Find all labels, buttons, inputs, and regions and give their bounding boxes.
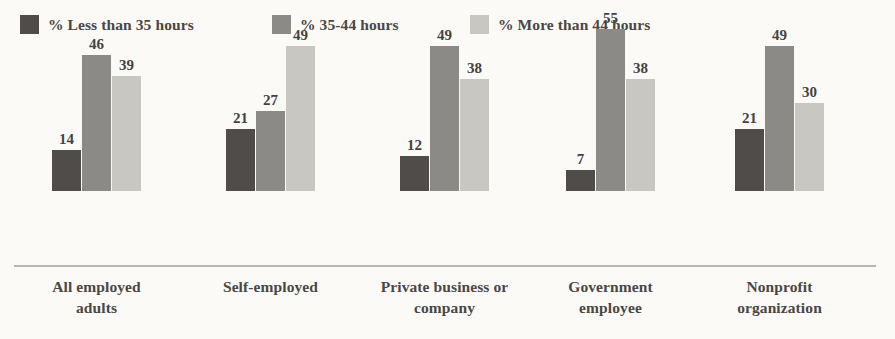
category-label-line: Nonprofit xyxy=(700,276,860,297)
category-label: Governmentemployee xyxy=(531,276,691,319)
bar-value-label: 12 xyxy=(407,138,422,153)
x-axis-baseline xyxy=(14,265,876,267)
bar-value-label: 39 xyxy=(119,58,134,73)
category-label-line: organization xyxy=(700,297,860,318)
bar[interactable]: 27 xyxy=(256,111,285,191)
bar-value-label: 55 xyxy=(603,11,618,26)
bar-value-label: 38 xyxy=(467,61,482,76)
bar[interactable]: 21 xyxy=(226,129,255,191)
bar-group: 75538 xyxy=(566,0,656,265)
bar-value-label: 49 xyxy=(293,28,308,43)
bar[interactable]: 49 xyxy=(286,46,315,191)
bar-group: 214930 xyxy=(735,0,825,265)
plot-area: 144639All employedadults212749Self-emplo… xyxy=(0,0,895,339)
bar-value-label: 30 xyxy=(802,85,817,100)
category-label: Nonprofitorganization xyxy=(700,276,860,319)
bar-value-label: 38 xyxy=(633,61,648,76)
bar-value-label: 49 xyxy=(772,28,787,43)
bar-group: 212749 xyxy=(226,0,316,265)
bar-group: 124938 xyxy=(400,0,490,265)
bar-value-label: 27 xyxy=(263,93,278,108)
bar[interactable]: 12 xyxy=(400,156,429,191)
category-label-line: employee xyxy=(531,297,691,318)
category-label: Self-employed xyxy=(191,276,351,297)
category-label-line: All employed xyxy=(17,276,177,297)
bar[interactable]: 7 xyxy=(566,170,595,191)
bar[interactable]: 39 xyxy=(112,76,141,191)
category-label-line: Private business or xyxy=(365,276,525,297)
bar-value-label: 7 xyxy=(577,152,585,167)
category-label: All employedadults xyxy=(17,276,177,319)
bar[interactable]: 38 xyxy=(460,79,489,191)
bar[interactable]: 55 xyxy=(596,29,625,191)
bar-value-label: 21 xyxy=(742,111,757,126)
bar[interactable]: 49 xyxy=(765,46,794,191)
bar[interactable]: 21 xyxy=(735,129,764,191)
category-label-line: adults xyxy=(17,297,177,318)
category-label-line: Self-employed xyxy=(191,276,351,297)
bar[interactable]: 30 xyxy=(795,103,824,192)
bar[interactable]: 49 xyxy=(430,46,459,191)
bar[interactable]: 38 xyxy=(626,79,655,191)
bar-group: 144639 xyxy=(52,0,142,265)
bar-value-label: 21 xyxy=(233,111,248,126)
category-label-line: Government xyxy=(531,276,691,297)
bar-value-label: 49 xyxy=(437,28,452,43)
bar[interactable]: 14 xyxy=(52,150,81,191)
bar[interactable]: 46 xyxy=(82,55,111,191)
bar-value-label: 14 xyxy=(59,132,74,147)
bar-value-label: 46 xyxy=(89,37,104,52)
category-label-line: company xyxy=(365,297,525,318)
category-label: Private business orcompany xyxy=(365,276,525,319)
bar-chart: % Less than 35 hours% 35-44 hours% More … xyxy=(0,0,895,339)
